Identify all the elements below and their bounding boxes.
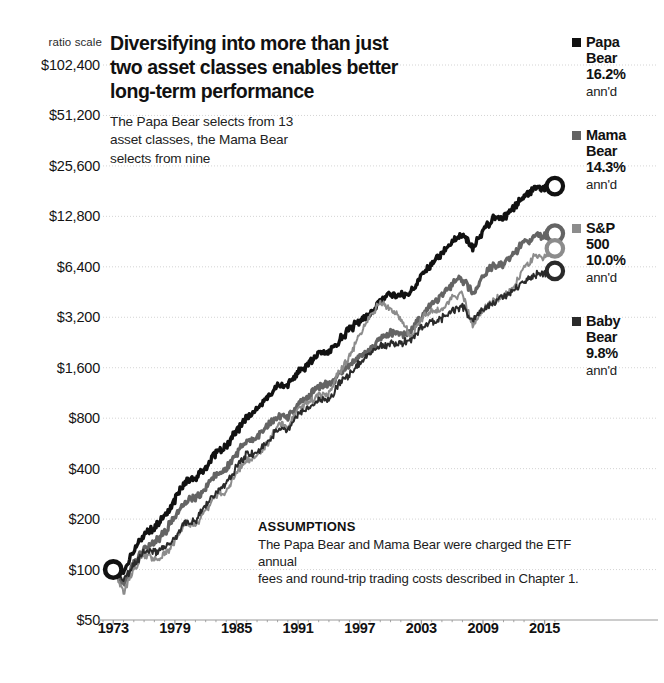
title-block: Diversifying into more than just two ass… <box>110 32 490 168</box>
legend-series-name: Papa <box>586 34 619 50</box>
legend-annualized-label: ann'd <box>586 84 664 100</box>
legend-item-s-p[interactable]: S&P50010.0%ann'd <box>572 220 664 285</box>
legend-swatch-icon <box>572 224 581 233</box>
legend-swatch-icon <box>572 38 581 47</box>
assumptions-line-1: The Papa Bear and Mama Bear were charged… <box>258 537 571 569</box>
legend-series-name: S&P <box>586 220 615 236</box>
legend-item-mama[interactable]: MamaBear14.3%ann'd <box>572 127 664 192</box>
legend-annualized-label: ann'd <box>586 363 664 379</box>
legend-annualized-pct: 16.2% <box>586 66 664 83</box>
title-line-3: long-term performance <box>110 80 314 102</box>
legend-item-papa[interactable]: PapaBear16.2%ann'd <box>572 34 664 99</box>
subtitle: The Papa Bear selects from 13 asset clas… <box>110 113 325 167</box>
legend-series-name: Mama <box>586 127 626 143</box>
legend-swatch-icon <box>572 317 581 326</box>
legend-series-name-line2: Bear <box>586 143 664 159</box>
x-axis-line <box>98 620 658 625</box>
assumptions-block: ASSUMPTIONS The Papa Bear and Mama Bear … <box>258 519 588 587</box>
legend-item-baby[interactable]: BabyBear9.8%ann'd <box>572 313 664 378</box>
assumptions-heading: ASSUMPTIONS <box>258 519 588 534</box>
title-line-2: two asset classes enables better <box>110 56 398 78</box>
legend-annualized-label: ann'd <box>586 270 664 286</box>
legend-annualized-pct: 9.8% <box>586 345 664 362</box>
legend-series-name-line2: Bear <box>586 50 664 66</box>
legend-annualized-pct: 14.3% <box>586 159 664 176</box>
legend-swatch-icon <box>572 131 581 140</box>
assumptions-text: The Papa Bear and Mama Bear were charged… <box>258 536 588 587</box>
legend-series-name-line2: Bear <box>586 329 664 345</box>
legend-annualized-pct: 10.0% <box>586 252 664 269</box>
title-line-1: Diversifying into more than just <box>110 32 388 54</box>
page-title: Diversifying into more than just two ass… <box>110 32 490 103</box>
assumptions-line-2: fees and round-trip trading costs descri… <box>258 571 579 586</box>
legend-series-name-line2: 500 <box>586 236 664 252</box>
legend-series-name: Baby <box>586 313 620 329</box>
legend-annualized-label: ann'd <box>586 177 664 193</box>
